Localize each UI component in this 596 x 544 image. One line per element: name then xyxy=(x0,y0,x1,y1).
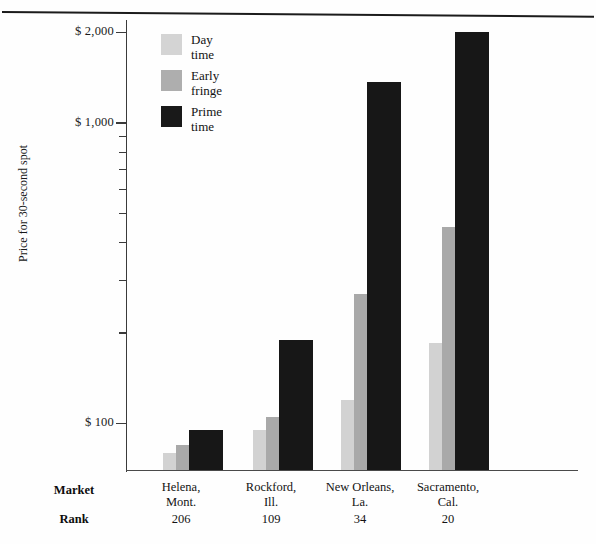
bar xyxy=(367,82,401,470)
category-label-line: Cal. xyxy=(388,495,508,510)
bar xyxy=(279,340,313,470)
chart-legend: DaytimeEarlyfringePrimetime xyxy=(161,33,281,141)
legend-swatch xyxy=(161,106,182,127)
market-row-label: Market xyxy=(22,483,126,498)
y-axis-tick-label: $ 100 xyxy=(48,415,114,430)
y-axis-line xyxy=(126,20,127,472)
y-axis-minor-tick xyxy=(119,242,127,243)
legend-label-line: time xyxy=(191,120,222,135)
chart-page: $ 2,000$ 1,000$ 100 Price for 30-second … xyxy=(0,0,596,544)
category-label: Sacramento,Cal. xyxy=(388,480,508,509)
category-label-line: Sacramento, xyxy=(388,480,508,495)
legend-swatch xyxy=(161,34,182,55)
y-axis-tick-label: $ 2,000 xyxy=(48,24,114,39)
top-rule-divider xyxy=(2,11,594,18)
legend-swatch xyxy=(161,70,182,91)
legend-label-line: Day xyxy=(191,33,214,48)
rank-row-label: Rank xyxy=(22,512,126,527)
y-axis-tick-label: $ 1,000 xyxy=(48,115,114,130)
y-axis-minor-tick xyxy=(119,152,127,153)
legend-label: Primetime xyxy=(191,105,222,134)
legend-item: Primetime xyxy=(161,105,281,134)
y-axis-minor-tick xyxy=(119,332,127,333)
y-axis-minor-tick xyxy=(119,280,127,281)
bar xyxy=(189,430,223,470)
legend-label-line: time xyxy=(191,48,214,63)
rank-value: 20 xyxy=(388,512,508,527)
legend-item: Earlyfringe xyxy=(161,69,281,98)
bar xyxy=(455,32,489,470)
y-axis-minor-tick xyxy=(119,169,127,170)
y-axis-title: Price for 30-second spot xyxy=(16,109,31,299)
legend-label: Daytime xyxy=(191,33,214,62)
y-axis-major-tick xyxy=(116,122,127,124)
y-axis-major-tick xyxy=(116,423,127,425)
legend-label: Earlyfringe xyxy=(191,69,222,98)
y-axis-minor-tick xyxy=(119,189,127,190)
x-axis-line xyxy=(126,470,578,471)
legend-label-line: Early xyxy=(191,69,222,84)
y-axis-minor-tick xyxy=(119,213,127,214)
legend-item: Daytime xyxy=(161,33,281,62)
y-axis-major-tick xyxy=(116,32,127,34)
y-axis-minor-tick xyxy=(119,136,127,137)
legend-label-line: Prime xyxy=(191,105,222,120)
legend-label-line: fringe xyxy=(191,84,222,99)
